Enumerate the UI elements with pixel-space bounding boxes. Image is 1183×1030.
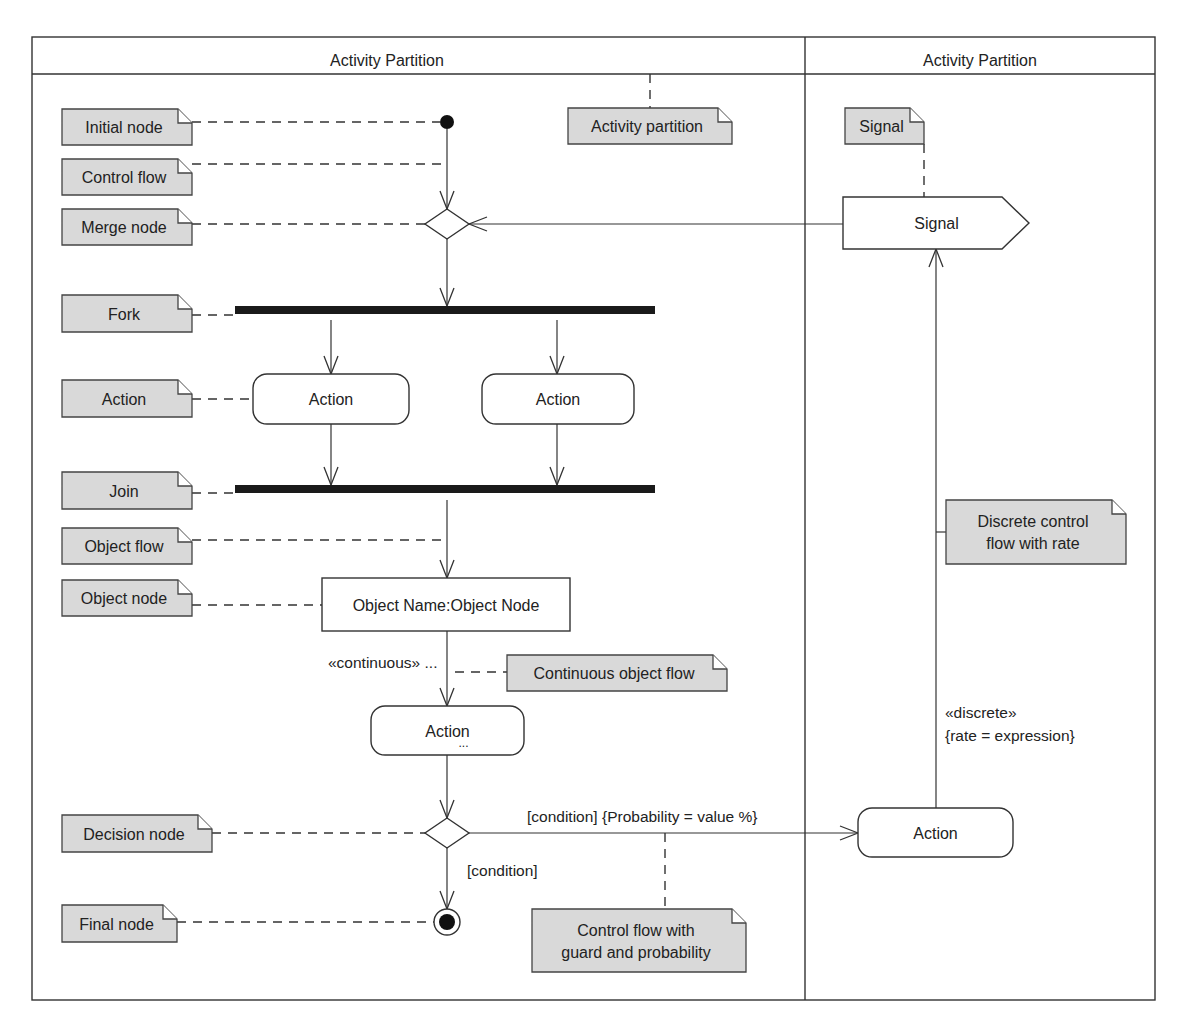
guard-probability-label: [condition] {Probability = value %}: [527, 808, 758, 825]
action-left-label: Action: [309, 391, 353, 408]
action-mid-ellipsis: ...: [458, 736, 468, 750]
uml-activity-diagram: Activity Partition Activity Partition: [0, 0, 1183, 1030]
note-continuous-object-flow: Continuous object flow: [507, 655, 727, 691]
action-mid[interactable]: Action ...: [371, 706, 524, 755]
initial-node[interactable]: [440, 115, 454, 129]
note-signal: Signal: [845, 108, 924, 144]
note-label: flow with rate: [986, 535, 1079, 552]
note-label: Activity partition: [591, 118, 703, 135]
final-node-inner: [439, 914, 455, 930]
note-connectors: [177, 74, 946, 922]
note-label: Action: [102, 391, 146, 408]
decision-node[interactable]: [425, 818, 469, 848]
object-node[interactable]: Object Name:Object Node: [322, 578, 570, 631]
note-label: Discrete control: [977, 513, 1088, 530]
note-discrete-control-flow: Discrete controlflow with rate: [946, 500, 1126, 564]
discrete-stereotype-label: «discrete»: [945, 704, 1017, 721]
note-fold-icon: [178, 159, 192, 173]
note-label: Object flow: [84, 538, 164, 555]
note-label: Final node: [79, 916, 154, 933]
note-label: Continuous object flow: [534, 665, 695, 682]
note-action: Action: [62, 380, 192, 417]
merge-node[interactable]: [425, 209, 469, 239]
note-final-node: Final node: [62, 905, 177, 942]
action-right[interactable]: Action: [482, 374, 634, 424]
rate-expression-label: {rate = expression}: [945, 727, 1075, 744]
join-bar[interactable]: [235, 485, 655, 493]
note-fork: Fork: [62, 295, 192, 332]
signal-node[interactable]: Signal: [843, 197, 1029, 249]
object-node-label: Object Name:Object Node: [353, 597, 540, 614]
note-initial-node: Initial node: [62, 109, 192, 145]
note-fold-icon: [178, 380, 192, 394]
note-label: Control flow: [82, 169, 167, 186]
guard-condition-label: [condition]: [467, 862, 538, 879]
note-object-node: Object node: [62, 580, 192, 616]
action-right-label: Action: [536, 391, 580, 408]
note-merge-node: Merge node: [62, 209, 192, 245]
note-label: guard and probability: [561, 944, 710, 961]
continuous-stereotype-label: «continuous» ...: [328, 654, 437, 671]
action-far-label: Action: [913, 825, 957, 842]
note-label: Decision node: [83, 826, 185, 843]
partition-header-right: Activity Partition: [923, 52, 1037, 69]
note-label: Signal: [859, 118, 903, 135]
note-label: Object node: [81, 590, 167, 607]
note-body: [532, 909, 746, 972]
note-control-flow-guard: Control flow withguard and probability: [532, 909, 746, 972]
note-fold-icon: [178, 472, 192, 486]
note-decision-node: Decision node: [62, 815, 212, 852]
action-far[interactable]: Action: [858, 808, 1013, 857]
signal-label: Signal: [914, 215, 958, 232]
partition-header-left: Activity Partition: [330, 52, 444, 69]
note-body: [946, 500, 1126, 564]
note-fold-icon: [178, 209, 192, 223]
fork-bar[interactable]: [235, 306, 655, 314]
note-label: Initial node: [85, 119, 162, 136]
note-label: Join: [109, 483, 138, 500]
note-control-flow: Control flow: [62, 159, 192, 195]
note-fold-icon: [178, 295, 192, 309]
note-label: Merge node: [81, 219, 166, 236]
action-left[interactable]: Action: [253, 374, 409, 424]
note-label: Fork: [108, 306, 141, 323]
note-label: Control flow with: [577, 922, 694, 939]
note-activity-partition: Activity partition: [568, 108, 732, 144]
note-join: Join: [62, 472, 192, 509]
note-fold-icon: [732, 909, 746, 923]
note-object-flow: Object flow: [62, 528, 192, 564]
note-fold-icon: [713, 655, 727, 669]
final-node[interactable]: [434, 909, 460, 935]
